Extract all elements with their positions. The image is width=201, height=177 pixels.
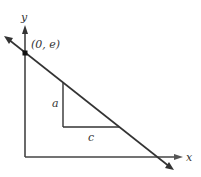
y-axis-label: y	[20, 11, 28, 24]
diagram-canvas: y x (0, e) a c	[0, 0, 201, 177]
x-axis-arrowhead	[174, 154, 183, 160]
tangent-line	[8, 39, 170, 167]
triangle-label-c: c	[88, 131, 94, 144]
x-axis-label: x	[186, 151, 193, 164]
y-axis-arrowhead	[22, 25, 28, 34]
intercept-point	[23, 51, 28, 56]
triangle-label-a: a	[52, 97, 59, 110]
intercept-label: (0, e)	[31, 38, 60, 51]
